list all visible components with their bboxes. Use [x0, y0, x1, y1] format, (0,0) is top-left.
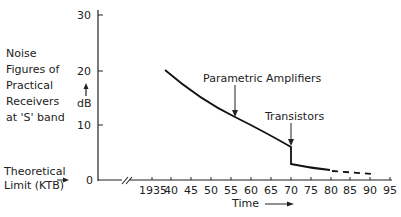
ylabel-line-2: Figures of — [6, 63, 59, 76]
x-tick-label-85: 85 — [343, 184, 357, 197]
x-tick-label-40: 40 — [164, 184, 178, 197]
x-tick-label-80: 80 — [324, 184, 338, 197]
y-tick-label-30: 30 — [77, 9, 91, 22]
x-tick-label-45: 45 — [184, 184, 198, 197]
y-tick-label-0: 0 — [86, 174, 93, 187]
y-tick-label-20: 20 — [77, 65, 91, 78]
db-up-arrowhead — [84, 83, 89, 89]
time-arrowhead — [287, 202, 294, 207]
y-unit-label: dB — [77, 97, 92, 110]
x-tick-label-70: 70 — [284, 184, 298, 197]
annotation-transistors: Transistors — [265, 110, 324, 123]
x-tick-label-60: 60 — [244, 184, 258, 197]
zero-label-line-1: Theoretical — [4, 165, 65, 178]
x-tick-label-95: 95 — [383, 184, 397, 197]
ylabel-line-5: at 'S' band — [6, 111, 65, 124]
annotation-parametric-amplifiers: Parametric Amplifiers — [203, 72, 321, 85]
x-tick-label-75: 75 — [304, 184, 318, 197]
ylabel-line-3: Practical — [6, 79, 53, 92]
x-tick-label-90: 90 — [363, 184, 377, 197]
x-axis-label: Time — [232, 197, 259, 210]
x-tick-label-1935: 1935 — [139, 184, 167, 197]
ylabel-line-4: Receivers — [6, 95, 59, 108]
x-axis — [98, 177, 392, 184]
ylabel-line-1: Noise — [6, 47, 37, 60]
x-tick-label-50: 50 — [204, 184, 218, 197]
projected-curve-dashed — [332, 171, 372, 174]
x-tick-label-65: 65 — [264, 184, 278, 197]
zero-label-line-2: Limit (KTB) — [4, 179, 64, 192]
x-tick-label-55: 55 — [224, 184, 238, 197]
y-tick-label-10: 10 — [77, 119, 91, 132]
